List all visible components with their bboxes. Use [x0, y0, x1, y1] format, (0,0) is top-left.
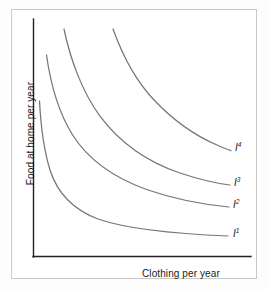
curve-label-I4-sup: 4	[238, 141, 242, 148]
curve-label-I1: I1	[233, 228, 239, 239]
figure-container: I4 I3 I2 I1 Food at home per year Clothi…	[0, 0, 269, 292]
curve-label-I1-sup: 1	[236, 227, 240, 234]
curve-label-I2: I2	[233, 199, 239, 210]
y-axis-label: Food at home per year	[25, 59, 36, 209]
indifference-curve-plot	[12, 10, 256, 278]
figure-frame: I4 I3 I2 I1 Food at home per year Clothi…	[11, 9, 257, 279]
curve-label-I4: I4	[235, 142, 241, 153]
curve-I2	[47, 55, 230, 207]
curve-label-I2-sup: 2	[236, 198, 240, 205]
curve-label-I3-sup: 3	[237, 176, 241, 183]
x-axis-label: Clothing per year	[142, 268, 220, 279]
curve-I3	[64, 29, 230, 185]
curve-I1	[40, 101, 229, 236]
curve-label-I3: I3	[234, 177, 240, 188]
curve-I4	[113, 29, 231, 151]
